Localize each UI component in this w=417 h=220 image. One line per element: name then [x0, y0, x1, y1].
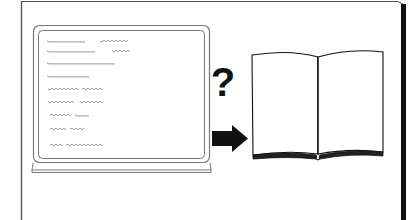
- diagram-canvas: [0, 0, 417, 220]
- scribble-line: [50, 144, 62, 146]
- scribble-line: [82, 88, 102, 90]
- scribble-line: [50, 128, 66, 130]
- scribble-line: [80, 101, 102, 103]
- question-mark: ?: [210, 60, 236, 104]
- scribble-line: [75, 115, 89, 116]
- scribble-line: [66, 144, 102, 146]
- monitor-icon: [32, 26, 211, 173]
- scribble-line: [47, 41, 85, 42]
- scribble-line: [70, 128, 84, 130]
- arrow-right-icon: [212, 125, 248, 152]
- scribble-line: [47, 51, 95, 52]
- scribble-line: [47, 63, 115, 64]
- screen-text-scribbles: [47, 40, 130, 146]
- scribble-line: [48, 88, 78, 90]
- open-book-icon: [252, 51, 383, 160]
- scribble-line: [47, 76, 89, 77]
- scribble-line: [50, 114, 70, 116]
- scribble-line: [100, 40, 128, 42]
- scribble-line: [48, 101, 74, 103]
- scribble-line: [112, 50, 130, 52]
